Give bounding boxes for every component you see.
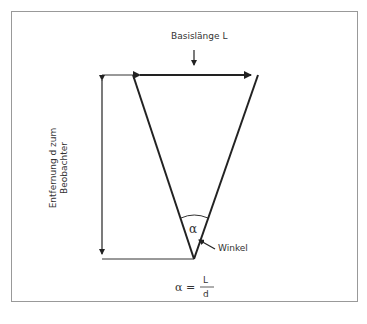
angle-symbol: α — [189, 222, 197, 236]
formula-lhs: α = — [175, 281, 195, 294]
angle-label: Winkel — [218, 243, 248, 253]
base-length-label: Basislänge L — [171, 31, 227, 41]
angle-pointer-arrow — [199, 240, 215, 249]
formula-numerator: L — [203, 275, 208, 285]
triangle-left-side — [133, 75, 194, 259]
formula-denominator: d — [203, 289, 209, 299]
triangle-right-side — [194, 75, 258, 259]
angle-arc — [181, 215, 208, 218]
distance-label: Entfernung d zum Beobachter — [48, 128, 70, 209]
